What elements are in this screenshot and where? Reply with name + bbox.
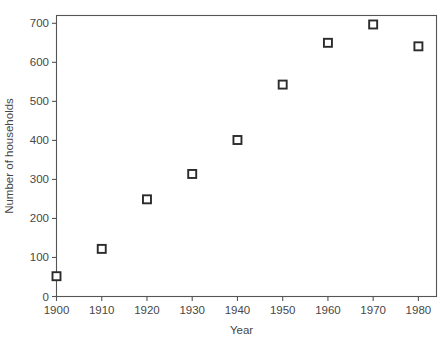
x-tick-label: 1970 [360,304,386,316]
plot-frame [57,16,437,297]
y-tick-label: 700 [30,17,49,29]
x-tick-label: 1940 [225,304,251,316]
y-tick-label: 0 [43,291,49,303]
x-tick-label: 1910 [89,304,115,316]
x-tick-label: 1920 [134,304,160,316]
data-point-marker [279,81,287,89]
y-tick-label: 600 [30,56,49,68]
x-axis-title: Year [230,324,253,336]
data-point-marker [369,20,377,28]
y-tick-label: 300 [30,173,49,185]
y-tick-label: 100 [30,251,49,263]
chart-figure: 0100200300400500600700190019101920193019… [0,0,447,345]
scatter-plot: 0100200300400500600700190019101920193019… [0,0,447,345]
data-series [53,20,423,280]
y-tick-label: 200 [30,212,49,224]
data-point-marker [98,245,106,253]
x-tick-label: 1950 [270,304,296,316]
x-tick-label: 1930 [179,304,205,316]
x-tick-label: 1960 [315,304,341,316]
data-point-marker [324,39,332,47]
data-point-marker [233,136,241,144]
data-point-marker [143,195,151,203]
x-axis: 190019101920193019401950196019701980 [44,297,431,317]
y-axis-title: Number of households [3,98,15,214]
data-point-marker [53,272,61,280]
data-point-marker [414,42,422,50]
x-tick-label: 1980 [406,304,432,316]
y-axis: 0100200300400500600700 [30,17,57,302]
y-tick-label: 500 [30,95,49,107]
y-tick-label: 400 [30,134,49,146]
x-tick-label: 1900 [44,304,70,316]
data-point-marker [188,170,196,178]
